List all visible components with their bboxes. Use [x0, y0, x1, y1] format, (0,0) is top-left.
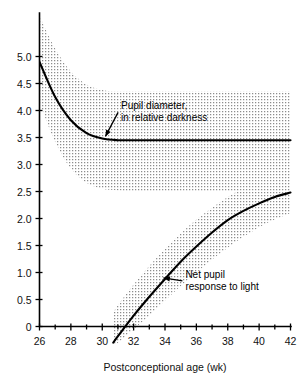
y-tick-label: 3.5: [17, 132, 32, 144]
y-tick-label: 3.0: [17, 159, 32, 171]
x-tick-label: 26: [34, 335, 46, 347]
x-tick-label: 34: [159, 335, 171, 347]
confidence-bands: [40, 16, 291, 345]
x-tick-label: 38: [222, 335, 234, 347]
x-tick-label: 42: [285, 335, 297, 347]
y-tick-label: 1.0: [17, 267, 32, 279]
y-tick-label: 0: [26, 321, 32, 333]
x-tick-label: 32: [128, 335, 140, 347]
x-tick-label: 40: [253, 335, 265, 347]
annotation-line-2: response to light: [185, 281, 259, 292]
x-tick-label: 30: [96, 335, 108, 347]
x-tick-label: 36: [191, 335, 203, 347]
y-tick-label: 5.0: [17, 51, 32, 63]
x-axis-tick-labels: 262830323436384042: [34, 335, 297, 347]
y-tick-label: 4.5: [17, 78, 32, 90]
chart-container: 00.51.01.52.02.53.03.54.04.55.0 26283032…: [0, 0, 307, 383]
annotation-line-1: Net pupil: [185, 269, 224, 280]
y-tick-label: 4.0: [17, 105, 32, 117]
y-tick-label: 1.5: [17, 240, 32, 252]
x-axis-title: Postconceptional age (wk): [103, 361, 226, 373]
y-tick-label: 2.0: [17, 213, 32, 225]
annotation-line-2: in relative darkness: [121, 112, 207, 123]
band-net-pupil-response: [113, 171, 290, 345]
y-tick-label: 0.5: [17, 294, 32, 306]
pupil-development-chart: 00.51.01.52.02.53.03.54.04.55.0 26283032…: [0, 0, 307, 383]
x-tick-label: 28: [65, 335, 77, 347]
y-tick-label: 2.5: [17, 186, 32, 198]
annotation-line-1: Pupil diameter,: [121, 100, 187, 111]
y-axis-tick-labels: 00.51.01.52.02.53.03.54.04.55.0: [17, 51, 32, 333]
